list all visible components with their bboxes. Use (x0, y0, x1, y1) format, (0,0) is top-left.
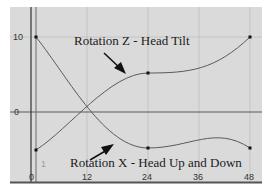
annotation-rotation-z: Rotation Z - Head Tilt (74, 33, 190, 48)
keyframe-x-48[interactable] (249, 147, 252, 150)
x-tick-12: 12 (82, 172, 92, 182)
keyframe-z-24[interactable] (147, 72, 150, 75)
keyframe-z-48[interactable] (249, 36, 252, 39)
frame-marker-label: 1 (41, 159, 46, 169)
keyframe-z-0[interactable] (35, 149, 38, 152)
keyframe-x-24[interactable] (147, 147, 150, 150)
x-tick-24: 24 (142, 172, 152, 182)
x-tick-36: 36 (193, 172, 203, 182)
y-tick-0: 0 (14, 107, 19, 117)
annotation-rotation-x: Rotation X - Head Up and Down (70, 155, 242, 170)
animation-curve-chart: Rotation Z - Head Tilt Rotation X - Head… (0, 0, 271, 189)
x-tick-0: 0 (29, 172, 34, 182)
y-tick-10: 10 (13, 32, 23, 42)
keyframe-x-0[interactable] (35, 36, 38, 39)
x-tick-48: 48 (244, 172, 254, 182)
